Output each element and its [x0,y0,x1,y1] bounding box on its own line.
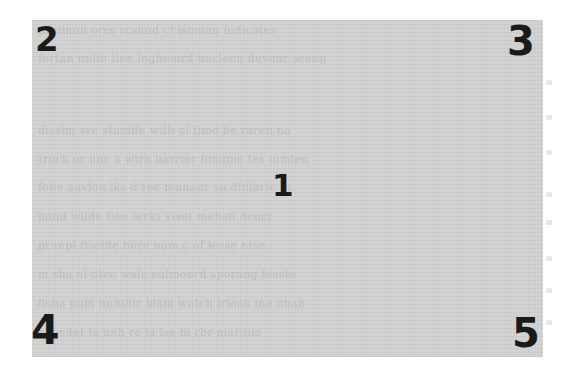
region-label-1: 1 [272,170,294,201]
region-label-5: 5 [512,313,540,353]
document-page: prelimin orcs rcsand cf isoman fedicotes… [0,0,565,374]
text-line: m sha ol dtco wale eulmoord sporang lees… [38,270,538,280]
faded-margin-text [544,20,562,358]
text-line: nand wilde flee ferks viset mehen deuci [38,212,538,222]
text-line: nrundet la nnh re la lse m rbr marinio [38,328,538,338]
text-line: pranpl fiselde bore num c of lesse nise [38,241,538,251]
text-line: dissim sve stanide with ol fimo be raren… [38,126,538,136]
text-line: Iruck or unc a wirh barrier fomime tes l… [38,155,538,165]
region-label-2: 2 [35,22,59,56]
region-label-3: 3 [507,21,535,61]
text-line: lisha pum nunihir blam watch irleak ine … [38,299,538,309]
text-line: fortan nnlih tiee lnghomrd nucleon duvon… [38,54,538,64]
region-label-4: 4 [31,310,60,351]
text-line: prelimin orcs rcsand cf isoman fedicotes [38,26,538,36]
text-line [38,82,538,92]
